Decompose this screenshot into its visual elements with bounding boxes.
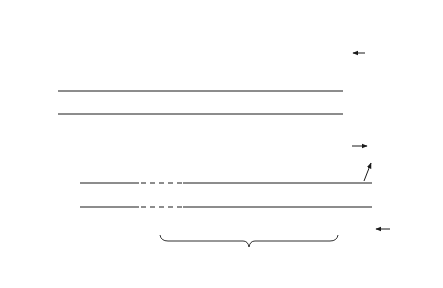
go-back-n-timing-diagram [0,0,443,288]
secondary-timeline [80,183,372,207]
secondary-tail-arrow-icon [364,163,371,181]
time-indicator [352,146,371,181]
primary-timeline [58,91,343,114]
frames-discarded-brace [160,235,338,247]
brace-icon [160,235,338,247]
